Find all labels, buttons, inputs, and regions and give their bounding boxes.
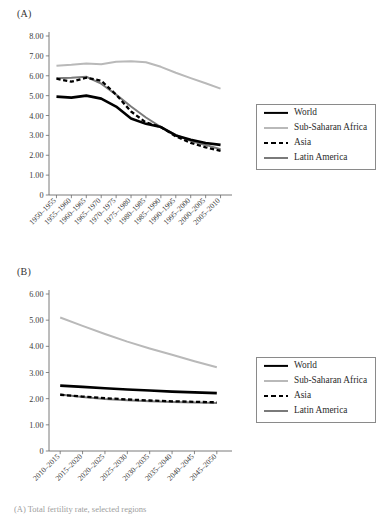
legend-swatch-world-icon [264,108,288,118]
legend-item: Latin America [257,403,375,418]
svg-text:2.00: 2.00 [29,395,43,404]
svg-text:6.00: 6.00 [29,290,43,299]
legend-swatch-asia-icon [264,391,288,401]
legend-item: World [257,358,375,373]
legend-item: Asia [257,388,375,403]
svg-text:4.00: 4.00 [29,342,43,351]
legend-swatch-latin-america-icon [264,153,288,163]
svg-text:7.00: 7.00 [29,52,43,61]
legend-label: Latin America [294,406,347,415]
svg-text:0: 0 [39,191,43,200]
legend-item: Sub-Saharan Africa [257,120,375,135]
legend-label: Asia [294,391,311,400]
legend-swatch-sub-saharan-africa-icon [264,376,288,386]
panel-b-legend: WorldSub-Saharan AfricaAsiaLatin America [256,357,376,423]
legend-label: Asia [294,138,311,147]
svg-text:1.00: 1.00 [29,171,43,180]
legend-label: Sub-Saharan Africa [294,376,367,385]
svg-text:8.00: 8.00 [29,32,43,41]
legend-label: Sub-Saharan Africa [294,123,367,132]
chart-panel-b: (B) 01.002.003.004.005.006.002010–201520… [0,256,386,513]
legend-item: World [257,105,375,120]
svg-text:4.00: 4.00 [29,112,43,121]
svg-text:0: 0 [39,447,43,456]
svg-text:5.00: 5.00 [29,92,43,101]
figure-caption: (A) Total fertility rate, selected regio… [14,504,146,514]
svg-text:3.00: 3.00 [29,369,43,378]
legend-item: Latin America [257,150,375,165]
svg-text:3.00: 3.00 [29,131,43,140]
svg-text:5.00: 5.00 [29,316,43,325]
chart-panel-a: (A) 01.002.003.004.005.006.007.008.00195… [0,0,386,256]
legend-swatch-sub-saharan-africa-icon [264,123,288,133]
legend-swatch-asia-icon [264,138,288,148]
legend-label: World [294,361,317,370]
legend-item: Sub-Saharan Africa [257,373,375,388]
legend-label: Latin America [294,153,347,162]
svg-text:2.00: 2.00 [29,151,43,160]
legend-item: Asia [257,135,375,150]
legend-label: World [294,108,317,117]
svg-text:6.00: 6.00 [29,72,43,81]
svg-text:1.00: 1.00 [29,421,43,430]
legend-swatch-latin-america-icon [264,406,288,416]
panel-a-legend: WorldSub-Saharan AfricaAsiaLatin America [256,104,376,170]
legend-swatch-world-icon [264,361,288,371]
